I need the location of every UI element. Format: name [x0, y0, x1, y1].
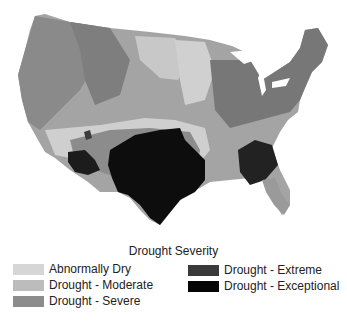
- legend-label: Abnormally Dry: [49, 262, 131, 276]
- legend-label: Drought - Moderate: [49, 278, 153, 292]
- region-east: [210, 28, 328, 128]
- legend-item-exceptional: Drought - Exceptional: [188, 279, 339, 293]
- swatch-exceptional: [188, 281, 219, 292]
- swatch-extreme: [188, 265, 219, 276]
- swatch-severe: [13, 296, 44, 307]
- legend-item-abnormally-dry: Abnormally Dry: [13, 262, 131, 276]
- swatch-moderate: [13, 280, 44, 291]
- legend-label: Drought - Extreme: [224, 263, 322, 277]
- legend-item-severe: Drought - Severe: [13, 294, 140, 308]
- drought-map: [0, 0, 347, 235]
- legend-title: Drought Severity: [0, 244, 347, 258]
- legend-item-extreme: Drought - Extreme: [188, 263, 322, 277]
- legend-label: Drought - Severe: [49, 294, 140, 308]
- legend-label: Drought - Exceptional: [224, 279, 339, 293]
- swatch-abnormally-dry: [13, 264, 44, 275]
- legend-item-moderate: Drought - Moderate: [13, 278, 153, 292]
